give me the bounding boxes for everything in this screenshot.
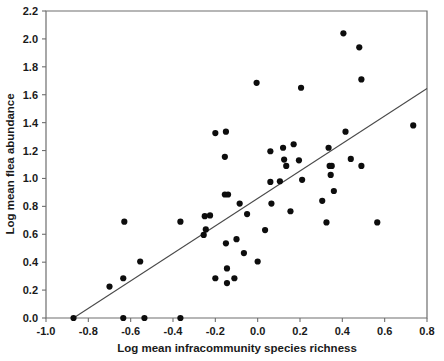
data-point xyxy=(203,226,209,232)
y-tick-label: 1.6 xyxy=(23,89,38,101)
trend-line xyxy=(74,88,427,318)
data-point xyxy=(268,200,274,206)
y-tick-label: 0.6 xyxy=(23,228,38,240)
data-point xyxy=(70,315,76,321)
data-point xyxy=(223,129,229,135)
y-axis-tick-labels: 0.00.20.40.60.81.01.21.41.61.82.02.2 xyxy=(23,5,39,324)
data-point xyxy=(241,250,247,256)
data-point xyxy=(340,30,346,36)
data-point xyxy=(201,232,207,238)
data-point xyxy=(177,219,183,225)
data-point xyxy=(410,122,416,128)
data-point xyxy=(120,275,126,281)
data-point xyxy=(233,236,239,242)
data-point xyxy=(262,227,268,233)
data-point xyxy=(342,129,348,135)
data-point xyxy=(212,275,218,281)
data-point xyxy=(224,280,230,286)
x-axis-tick-labels: -1.0-0.8-0.6-0.4-0.20.00.20.40.60.8 xyxy=(37,325,435,337)
y-axis-title: Log mean flea abundance xyxy=(4,93,16,234)
data-point xyxy=(356,44,362,50)
data-point xyxy=(237,200,243,206)
data-point xyxy=(267,179,273,185)
data-point xyxy=(223,240,229,246)
data-point xyxy=(231,275,237,281)
data-point xyxy=(277,178,283,184)
data-point xyxy=(254,80,260,86)
x-axis-title: Log mean infracommunity species richness xyxy=(117,342,357,354)
data-point xyxy=(281,157,287,163)
y-tick-label: 1.2 xyxy=(23,145,38,157)
x-tick-label: -1.0 xyxy=(37,325,56,337)
data-point xyxy=(328,172,334,178)
data-point xyxy=(106,284,112,290)
x-tick-label: -0.8 xyxy=(79,325,98,337)
data-point xyxy=(299,177,305,183)
data-point xyxy=(177,315,183,321)
regression-trend-line xyxy=(74,88,427,318)
x-tick-label: 0.6 xyxy=(377,325,392,337)
y-tick-label: 2.2 xyxy=(23,5,38,17)
plot-frame xyxy=(46,11,427,318)
x-tick-label: -0.6 xyxy=(121,325,140,337)
x-tick-label: 0.8 xyxy=(419,325,434,337)
data-point xyxy=(358,76,364,82)
data-point xyxy=(283,163,289,169)
y-tick-label: 1.4 xyxy=(23,117,39,129)
data-point xyxy=(222,154,228,160)
y-tick-label: 0.0 xyxy=(23,312,38,324)
data-point xyxy=(329,163,335,169)
data-point xyxy=(212,130,218,136)
data-point xyxy=(121,219,127,225)
y-tick-label: 2.0 xyxy=(23,33,38,45)
data-point xyxy=(298,85,304,91)
y-tick-label: 1.0 xyxy=(23,172,38,184)
data-point xyxy=(358,163,364,169)
y-tick-label: 0.8 xyxy=(23,200,38,212)
data-point xyxy=(319,198,325,204)
data-point xyxy=(255,258,261,264)
data-point xyxy=(207,212,213,218)
x-tick-label: -0.4 xyxy=(164,325,184,337)
data-point xyxy=(323,219,329,225)
scatter-points xyxy=(70,30,416,321)
data-point xyxy=(280,145,286,151)
data-point xyxy=(202,213,208,219)
data-point xyxy=(224,265,230,271)
data-point xyxy=(296,157,302,163)
data-point xyxy=(374,219,380,225)
x-tick-label: 0.4 xyxy=(335,325,351,337)
data-point xyxy=(137,258,143,264)
data-point xyxy=(291,141,297,147)
y-tick-label: 0.2 xyxy=(23,284,38,296)
x-tick-label: -0.2 xyxy=(206,325,225,337)
plot-canvas: -1.0-0.8-0.6-0.4-0.20.00.20.40.60.8 0.00… xyxy=(0,0,444,361)
x-tick-label: 0.2 xyxy=(292,325,307,337)
y-tick-label: 1.8 xyxy=(23,61,38,73)
data-point xyxy=(225,191,231,197)
data-point xyxy=(267,148,273,154)
x-tick-label: 0.0 xyxy=(250,325,265,337)
data-point xyxy=(325,145,331,151)
data-point xyxy=(244,211,250,217)
scatter-plot-figure: -1.0-0.8-0.6-0.4-0.20.00.20.40.60.8 0.00… xyxy=(0,0,444,361)
data-point xyxy=(348,156,354,162)
y-tick-label: 0.4 xyxy=(23,256,39,268)
data-point xyxy=(331,188,337,194)
data-point xyxy=(287,208,293,214)
data-point xyxy=(141,315,147,321)
data-point xyxy=(120,315,126,321)
